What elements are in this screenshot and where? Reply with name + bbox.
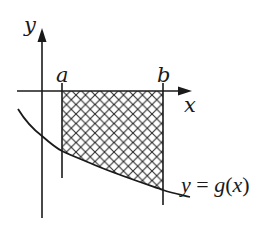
curve-label: y = g(x)	[179, 172, 250, 197]
x-axis-label: x	[184, 93, 196, 117]
y-axis-arrow-icon	[38, 28, 47, 42]
y-axis-label: y	[23, 13, 37, 37]
area-diagram: y x a b y = g(x)	[0, 0, 277, 225]
hatched-region	[62, 91, 163, 191]
bound-label-a: a	[56, 63, 69, 87]
bound-label-b: b	[157, 63, 170, 87]
y-axis	[38, 28, 47, 218]
